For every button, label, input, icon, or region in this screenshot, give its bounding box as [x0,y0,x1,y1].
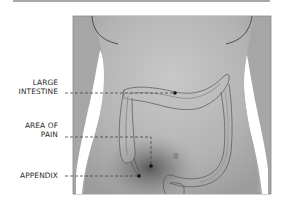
navel [174,153,179,159]
marker-appendix [137,174,141,178]
pain-area-shading [102,134,198,202]
label-appendix-line1: APPENDIX [20,171,58,180]
label-area-of-pain-line1: AREA OF [25,121,58,130]
label-area-of-pain-line2: PAIN [25,130,58,139]
label-large-intestine-line1: LARGE [19,78,58,87]
label-large-intestine: LARGE INTESTINE [19,78,58,96]
label-appendix: APPENDIX [20,171,58,180]
label-area-of-pain: AREA OF PAIN [25,121,58,139]
marker-large-intestine [173,91,177,95]
label-large-intestine-line2: INTESTINE [19,87,58,96]
marker-area-of-pain [149,164,153,168]
